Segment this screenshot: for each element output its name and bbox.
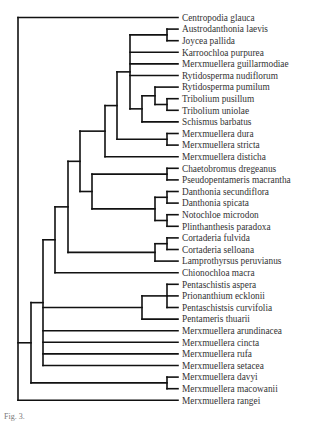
leaf-label: Cortaderia fulvida xyxy=(182,233,250,243)
leaf-label: Austrodanthonia laevis xyxy=(182,24,268,34)
leaf-label: Tribolium pusillum xyxy=(182,94,255,104)
leaf-label: Merxmuellera cincta xyxy=(182,338,259,348)
leaf-label: Lamprothyrsus peruvianus xyxy=(182,256,282,266)
figure-caption: Fig. 3. xyxy=(4,412,25,421)
leaf-label: Notochloe microdon xyxy=(182,210,259,220)
leaf-label: Karroochloa purpurea xyxy=(182,48,264,58)
leaf-label: Tribolium uniolae xyxy=(182,106,249,116)
leaf-label: Merxmuellera davyi xyxy=(182,372,258,382)
leaf-label: Centropodia glauca xyxy=(182,13,255,23)
leaf-label: Merxmuellera rufa xyxy=(182,349,252,359)
leaf-label: Pentaschistis aspera xyxy=(182,280,256,290)
leaf-label: Schismus barbatus xyxy=(182,117,252,127)
leaf-labels: Centropodia glaucaAustrodanthonia laevis… xyxy=(182,13,291,406)
leaf-label: Merxmuellera setacea xyxy=(182,361,264,371)
leaf-label: Merxmuellera guillarmodiae xyxy=(182,59,289,69)
leaf-label: Prionanthium ecklonii xyxy=(182,291,265,301)
leaf-label: Rytidosperma nudiflorum xyxy=(182,71,279,81)
tree-branches xyxy=(18,18,178,401)
leaf-label: Merxmuellera rangei xyxy=(182,396,261,406)
leaf-label: Cortaderia selloana xyxy=(182,245,254,255)
leaf-label: Merxmuellera stricta xyxy=(182,140,260,150)
leaf-label: Joycea pallida xyxy=(182,36,235,46)
leaf-label: Pseudopentameris macrantha xyxy=(182,175,291,185)
leaf-label: Danthonia secundiflora xyxy=(182,187,269,197)
leaf-label: Danthonia spicata xyxy=(182,198,249,208)
leaf-label: Merxmuellera arundinacea xyxy=(182,326,282,336)
leaf-label: Merxmuellera disticha xyxy=(182,152,266,162)
leaf-label: Pentaschistsis curvifolia xyxy=(182,303,272,313)
leaf-label: Chaetobromus dregeanus xyxy=(182,164,277,174)
leaf-label: Merxmuellera macowanii xyxy=(182,384,278,394)
leaf-label: Chionochloa macra xyxy=(182,268,255,278)
leaf-label: Pentameris thuarii xyxy=(182,314,250,324)
leaf-label: Merxmuellera dura xyxy=(182,129,254,139)
leaf-label: Rytidosperma pumilum xyxy=(182,82,270,92)
leaf-label: Plinthanthesis paradoxa xyxy=(182,222,271,232)
